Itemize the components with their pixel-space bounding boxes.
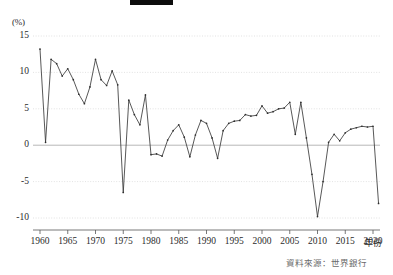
- data-point-marker: [289, 101, 291, 103]
- data-point-marker: [283, 107, 285, 109]
- data-point-marker: [311, 173, 313, 175]
- data-point-marker: [122, 192, 124, 194]
- data-point-marker: [361, 125, 363, 127]
- data-point-marker: [61, 75, 63, 77]
- gridlines-group: [33, 36, 380, 218]
- data-point-marker: [145, 94, 147, 96]
- data-point-marker: [378, 203, 380, 205]
- data-point-marker: [356, 127, 358, 129]
- data-point-marker: [211, 137, 213, 139]
- series-markers-group: [39, 48, 379, 217]
- data-point-marker: [233, 120, 235, 122]
- data-point-marker: [111, 70, 113, 72]
- data-point-marker: [117, 84, 119, 86]
- data-point-marker: [339, 140, 341, 142]
- data-point-marker: [306, 137, 308, 139]
- chart-figure: (%) 151050-5-10 196019651970197519801985…: [0, 0, 393, 275]
- data-point-marker: [139, 124, 141, 126]
- data-point-marker: [72, 79, 74, 81]
- data-point-marker: [95, 58, 97, 60]
- data-point-marker: [322, 181, 324, 183]
- data-point-marker: [217, 157, 219, 159]
- data-point-marker: [228, 123, 230, 125]
- data-point-marker: [317, 216, 319, 218]
- data-point-marker: [267, 112, 269, 114]
- data-point-marker: [45, 141, 47, 143]
- data-point-marker: [278, 108, 280, 110]
- y-axis-tick-label: -5: [5, 176, 29, 186]
- data-point-marker: [89, 86, 91, 88]
- data-point-marker: [344, 132, 346, 134]
- data-point-marker: [200, 120, 202, 122]
- data-point-marker: [350, 128, 352, 130]
- data-point-marker: [67, 68, 69, 70]
- y-axis-tick-label: -10: [5, 212, 29, 222]
- data-point-marker: [250, 115, 252, 117]
- data-point-marker: [178, 124, 180, 126]
- data-point-marker: [134, 114, 136, 116]
- data-point-marker: [372, 125, 374, 127]
- data-point-marker: [189, 156, 191, 158]
- data-point-marker: [172, 130, 174, 132]
- y-axis-tick-label: 5: [5, 103, 29, 113]
- data-point-marker: [84, 103, 86, 105]
- data-point-marker: [300, 101, 302, 103]
- data-point-marker: [333, 133, 335, 135]
- data-point-marker: [78, 93, 80, 95]
- data-point-marker: [150, 154, 152, 156]
- data-point-marker: [128, 99, 130, 101]
- data-point-marker: [261, 105, 263, 107]
- data-point-marker: [195, 134, 197, 136]
- series-line-gdp-growth: [40, 49, 379, 216]
- x-axis-ticks-group: [40, 230, 373, 234]
- data-point-marker: [367, 126, 369, 128]
- x-axis-title: 年份: [364, 236, 382, 249]
- data-point-marker: [56, 63, 58, 65]
- data-point-marker: [239, 120, 241, 122]
- data-point-marker: [106, 85, 108, 87]
- y-axis-tick-label: 0: [5, 139, 29, 149]
- data-point-marker: [328, 141, 330, 143]
- y-axis-tick-label: 10: [5, 66, 29, 76]
- data-point-marker: [156, 153, 158, 155]
- data-point-marker: [100, 79, 102, 81]
- data-point-marker: [183, 136, 185, 138]
- data-point-marker: [206, 123, 208, 125]
- y-axis-tick-label: 15: [5, 30, 29, 40]
- data-point-marker: [167, 139, 169, 141]
- data-point-marker: [256, 115, 258, 117]
- data-point-marker: [222, 130, 224, 132]
- data-point-marker: [161, 155, 163, 157]
- line-chart-plot: [0, 0, 393, 275]
- data-point-marker: [294, 133, 296, 135]
- data-point-marker: [50, 58, 52, 60]
- source-note: 資料來源：世界銀行: [286, 256, 367, 268]
- data-point-marker: [245, 114, 247, 116]
- data-point-marker: [272, 111, 274, 113]
- data-point-marker: [39, 48, 41, 50]
